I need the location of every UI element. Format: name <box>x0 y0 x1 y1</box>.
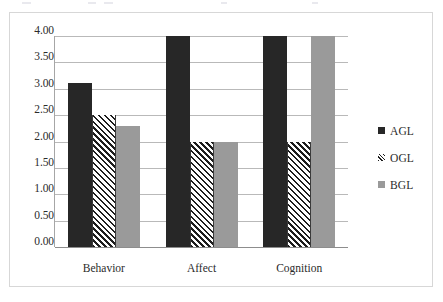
legend-label: BGL <box>390 179 413 191</box>
bars-layer <box>55 36 348 247</box>
chart-legend: AGLOGLBGL <box>378 117 440 198</box>
bar-group-cognition <box>250 36 348 247</box>
legend-entry-ogl[interactable]: OGL <box>378 144 440 171</box>
bar-agl-affect <box>166 36 190 247</box>
x-tick-label-behavior: Behavior <box>55 261 153 275</box>
bar-bgl-cognition <box>311 36 335 247</box>
bar-agl-behavior <box>68 83 92 247</box>
legend-swatch-icon-bgl <box>378 181 385 188</box>
plot-area <box>55 36 348 247</box>
bar-agl-cognition <box>263 36 287 247</box>
bar-ogl-behavior <box>92 115 116 247</box>
y-tick-label: 2.50 <box>18 103 54 115</box>
legend-swatch-icon-ogl <box>378 154 385 161</box>
legend-label: OGL <box>390 152 414 164</box>
y-axis-tick-labels: 4.003.503.002.502.001.501.000.500.00 <box>18 30 54 252</box>
x-tick-label-affect: Affect <box>153 261 251 275</box>
bar-bgl-affect <box>214 142 238 248</box>
y-tick-label: 0.50 <box>18 209 54 221</box>
bar-bgl-behavior <box>116 126 140 247</box>
y-tick-label: 1.50 <box>18 156 54 168</box>
chart-frame: 4.003.503.002.502.001.501.000.500.00 Beh… <box>9 12 433 287</box>
y-tick-label: 4.00 <box>18 24 54 36</box>
y-tick-label: 3.50 <box>18 50 54 62</box>
legend-entry-bgl[interactable]: BGL <box>378 171 440 198</box>
legend-entry-agl[interactable]: AGL <box>378 117 440 144</box>
x-tick-label-cognition: Cognition <box>250 261 348 275</box>
y-tick-label: 1.00 <box>18 182 54 194</box>
bar-group-affect <box>153 36 251 247</box>
bar-ogl-affect <box>190 142 214 248</box>
legend-label: AGL <box>390 125 414 137</box>
y-tick-label: 0.00 <box>18 235 54 247</box>
bar-group-behavior <box>55 36 153 247</box>
legend-swatch-icon-agl <box>378 127 385 134</box>
bar-ogl-cognition <box>287 142 311 248</box>
scan-artifacts <box>0 0 443 8</box>
axis-baseline <box>55 247 348 248</box>
y-tick-label: 3.00 <box>18 77 54 89</box>
y-tick-label: 2.00 <box>18 130 54 142</box>
x-axis-category-labels: BehaviorAffectCognition <box>55 261 348 275</box>
